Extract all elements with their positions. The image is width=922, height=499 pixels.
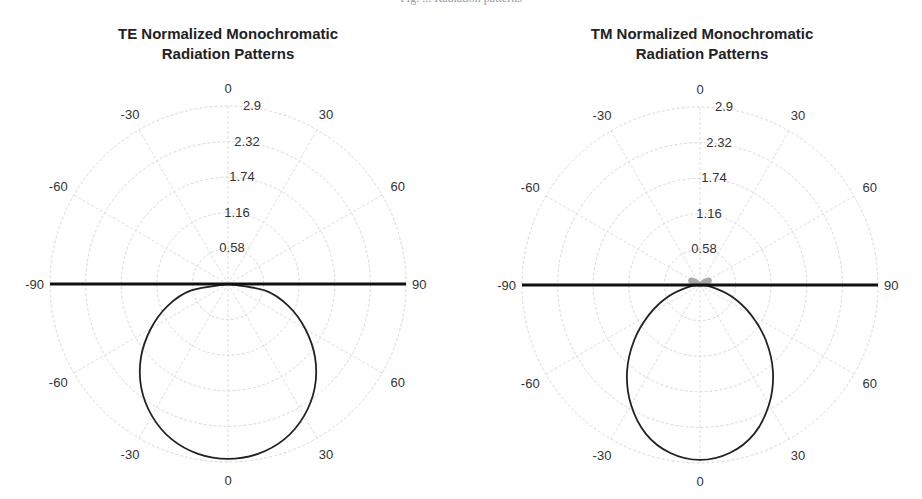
angular-tick-label: 60	[391, 179, 405, 194]
angular-tick-label: 30	[791, 108, 805, 123]
angular-gridline	[546, 196, 700, 285]
radial-tick-label: 2.9	[243, 98, 261, 113]
radial-tick-label: 1.16	[696, 206, 721, 221]
angular-tick-label: 90	[884, 278, 898, 293]
angular-tick-label: 30	[319, 107, 333, 122]
radial-tick-label: 2.32	[234, 134, 259, 149]
angular-tick-label: -60	[521, 376, 540, 391]
angular-tick-label: 0	[224, 81, 231, 96]
angular-tick-label: 30	[319, 447, 333, 462]
angular-tick-label: -60	[49, 375, 68, 390]
angular-gridline	[139, 130, 228, 284]
radial-tick-label: 1.74	[229, 169, 254, 184]
angular-gridline	[700, 196, 854, 285]
angular-tick-label: -60	[521, 180, 540, 195]
angular-tick-label: 0	[224, 473, 231, 488]
angular-tick-label: -30	[593, 448, 612, 463]
radial-tick-label: 2.32	[706, 135, 731, 150]
angular-tick-label: -30	[593, 108, 612, 123]
radial-tick-label: 1.74	[701, 170, 726, 185]
angular-tick-label: 30	[791, 448, 805, 463]
angular-tick-label: -30	[121, 447, 140, 462]
polar-charts: 0.581.161.742.322.90306090-30-60-9003060…	[0, 0, 922, 499]
angular-gridline	[611, 131, 700, 285]
angular-gridline	[546, 285, 700, 374]
radial-tick-label: 0.58	[219, 240, 244, 255]
angular-tick-label: 60	[391, 375, 405, 390]
angular-tick-label: -30	[121, 107, 140, 122]
angular-tick-label: 60	[863, 376, 877, 391]
angular-tick-label: -90	[497, 278, 516, 293]
angular-tick-label: 60	[863, 180, 877, 195]
angular-tick-label: -60	[49, 179, 68, 194]
angular-tick-label: 90	[412, 277, 426, 292]
angular-tick-label: 0	[696, 82, 703, 97]
radial-tick-label: 0.58	[691, 241, 716, 256]
angular-tick-label: 0	[696, 474, 703, 489]
radial-tick-label: 1.16	[224, 205, 249, 220]
radial-tick-label: 2.9	[715, 99, 733, 114]
angular-gridline	[228, 195, 382, 284]
angular-tick-label: -90	[25, 277, 44, 292]
angular-gridline	[74, 195, 228, 284]
angular-gridline	[700, 285, 854, 374]
tm-polar-chart: 0.581.161.742.322.90306090-30-60-9003060…	[497, 82, 898, 489]
te-polar-chart: 0.581.161.742.322.90306090-30-60-9003060…	[25, 81, 426, 488]
